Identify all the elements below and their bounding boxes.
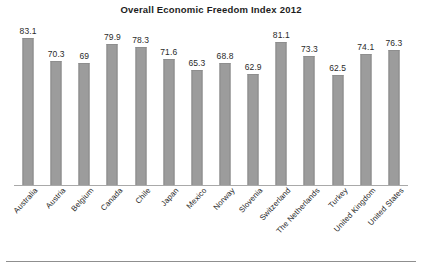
bar-value-label: 68.8	[217, 51, 234, 61]
bar[interactable]	[79, 63, 90, 185]
bar-value-label: 81.1	[273, 30, 290, 40]
bar-slot: 74.1	[352, 26, 380, 185]
x-axis-tick-label: Austria	[44, 186, 68, 210]
bar-slot: 79.9	[98, 26, 126, 185]
bar-slot: 62.5	[324, 26, 352, 185]
chart-container: Overall Economic Freedom Index 2012 83.1…	[0, 0, 422, 271]
bar-value-label: 74.1	[357, 42, 374, 52]
bar-value-label: 62.9	[245, 62, 262, 72]
bar-value-label: 78.3	[132, 35, 149, 45]
figure-bottom-rule	[6, 261, 416, 262]
plot-area: 83.170.36979.978.371.665.368.862.981.173…	[14, 26, 408, 185]
x-axis-tick-label: Slovenia	[237, 186, 265, 215]
chart-title: Overall Economic Freedom Index 2012	[0, 4, 422, 15]
bar-value-label: 70.3	[48, 49, 65, 59]
bar-value-label: 73.3	[301, 44, 318, 54]
bar[interactable]	[51, 61, 62, 185]
bar-series: 83.170.36979.978.371.665.368.862.981.173…	[14, 26, 408, 185]
x-axis-tick-label: Belgium	[70, 186, 96, 213]
x-axis-tick-label: Canada	[98, 186, 124, 213]
bar-slot: 73.3	[295, 26, 323, 185]
bar[interactable]	[135, 47, 146, 185]
bar-slot: 69	[70, 26, 98, 185]
bar-slot: 65.3	[183, 26, 211, 185]
bar-value-label: 79.9	[104, 32, 121, 42]
bar[interactable]	[107, 44, 118, 185]
bar-slot: 62.9	[239, 26, 267, 185]
x-axis-tick-label: Turkey	[326, 186, 349, 210]
bar-slot: 68.8	[211, 26, 239, 185]
bar[interactable]	[360, 54, 371, 185]
x-axis-category-labels: AustraliaAustriaBelgiumCanadaChileJapanM…	[14, 186, 408, 246]
bar-slot: 78.3	[127, 26, 155, 185]
bar-value-label: 65.3	[188, 58, 205, 68]
bar[interactable]	[388, 50, 399, 185]
bar[interactable]	[332, 75, 343, 185]
bar[interactable]	[23, 38, 34, 185]
bar-slot: 81.1	[267, 26, 295, 185]
x-axis-tick-label: Chile	[133, 186, 152, 206]
x-axis-tick-label: Japan	[159, 186, 180, 208]
x-axis-tick-label: Norway	[212, 186, 237, 212]
x-axis-tick-label: Australia	[12, 186, 40, 215]
bar[interactable]	[220, 63, 231, 185]
bar-value-label: 69	[80, 51, 90, 61]
bar-slot: 71.6	[155, 26, 183, 185]
bar-value-label: 76.3	[385, 38, 402, 48]
bar[interactable]	[248, 74, 259, 185]
bar-slot: 70.3	[42, 26, 70, 185]
bar[interactable]	[191, 70, 202, 185]
bar[interactable]	[276, 42, 287, 185]
bar-slot: 83.1	[14, 26, 42, 185]
bar-value-label: 71.6	[160, 47, 177, 57]
x-axis-tick-label: Mexico	[185, 186, 209, 211]
bar-value-label: 83.1	[20, 26, 37, 36]
bar-slot: 76.3	[380, 26, 408, 185]
bar[interactable]	[304, 56, 315, 185]
bar-value-label: 62.5	[329, 63, 346, 73]
bar[interactable]	[163, 59, 174, 185]
